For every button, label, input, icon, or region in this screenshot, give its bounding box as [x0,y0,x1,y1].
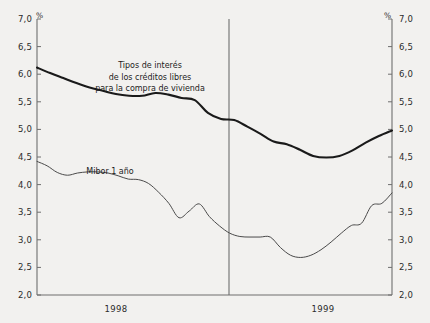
annotation-tipos-line-2: de los créditos libres [85,72,215,84]
y-tick-label-right-4-5: 4,5 [399,153,425,162]
y-tick-label-left-3-0: 3,0 [6,236,32,245]
y-tick-label-right-6-5: 6,5 [399,43,425,52]
y-tick-label-left-3-5: 3,5 [6,208,32,217]
y-ticks-left [37,19,41,295]
annotation-tipos-line-3: para la compra de vivienda [85,83,215,95]
x-label-1998: 1998 [88,305,144,314]
y-tick-label-left-4-5: 4,5 [6,153,32,162]
y-tick-label-right-7-0: 7,0 [399,15,425,24]
y-tick-label-left-4-0: 4,0 [6,181,32,190]
y-tick-label-right-5-0: 5,0 [399,125,425,134]
y-tick-label-left-7-0: 7,0 [6,15,32,24]
annotation-tipos-line-1: Tipos de interés [85,60,215,72]
y-tick-label-right-4-0: 4,0 [399,181,425,190]
y-tick-label-right-3-0: 3,0 [399,236,425,245]
annotation-mibor: Mibor 1 año [70,166,150,178]
y-tick-label-right-3-5: 3,5 [399,208,425,217]
annotation-tipos-interes: Tipos de interés de los créditos libres … [85,60,215,95]
y-ticks-right [388,19,392,295]
y-tick-label-right-2-5: 2,5 [399,263,425,272]
y-tick-label-right-2-0: 2,0 [399,291,425,300]
y-tick-label-left-6-5: 6,5 [6,43,32,52]
y-tick-label-left-2-0: 2,0 [6,291,32,300]
y-tick-label-left-5-5: 5,5 [6,98,32,107]
y-tick-label-left-6-0: 6,0 [6,70,32,79]
x-label-1999: 1999 [295,305,351,314]
y-tick-label-right-6-0: 6,0 [399,70,425,79]
unit-symbol-left: % [36,12,43,20]
chart-plot-svg [0,0,430,323]
y-tick-label-left-2-5: 2,5 [6,263,32,272]
y-tick-label-left-5-0: 5,0 [6,125,32,134]
unit-symbol-right: % [384,12,391,20]
chart-figure: % % 7,06,56,05,55,04,54,03,53,02,52,0 7,… [0,0,430,323]
y-tick-label-right-5-5: 5,5 [399,98,425,107]
